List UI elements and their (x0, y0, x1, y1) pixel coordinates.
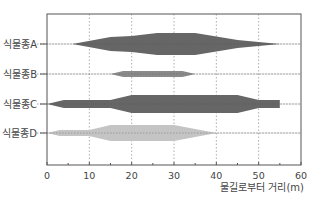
x-tick-label: 40 (210, 170, 222, 181)
species-kites (47, 33, 301, 141)
x-tick-label: 20 (126, 170, 138, 181)
kite-3 (47, 95, 280, 113)
x-tick-label: 0 (44, 170, 50, 181)
species-label: 식물종D (2, 128, 37, 139)
x-tick-label: 10 (83, 170, 95, 181)
y-axis-labels: 식물종A식물종B식물종C식물종D (2, 39, 47, 139)
species-label: 식물종C (3, 99, 37, 110)
kite-chart: 0102030405060 식물종A식물종B식물종C식물종D 물길로부터 거리(… (0, 0, 318, 202)
x-tick-label: 60 (295, 170, 307, 181)
species-label: 식물종A (3, 39, 37, 50)
x-tick-label: 30 (168, 170, 180, 181)
x-tick-label: 50 (253, 170, 265, 181)
x-axis-label: 물길로부터 거리(m) (220, 181, 304, 193)
species-label: 식물종B (3, 69, 37, 80)
